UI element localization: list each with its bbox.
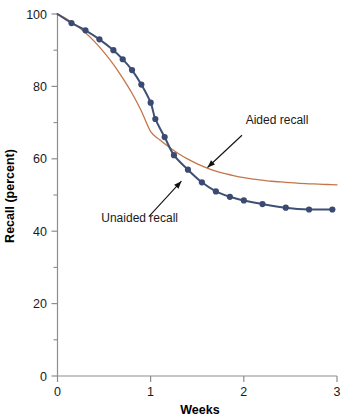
data-point-marker	[110, 47, 116, 53]
chart-figure: 100 80 60 40 20 0 0 1 2 3 Weeks Recall (…	[0, 0, 349, 420]
y-tick-label: 60	[33, 152, 47, 166]
recall-decay-line-chart: 100 80 60 40 20 0 0 1 2 3 Weeks Recall (…	[0, 0, 349, 420]
data-point-marker	[138, 81, 144, 87]
data-point-marker	[152, 116, 158, 122]
x-axis-ticks	[58, 376, 338, 382]
annotation-unaided-recall: Unaided recall	[101, 181, 181, 225]
data-point-marker	[171, 152, 177, 158]
y-tick-label: 0	[40, 370, 47, 384]
axis-lines	[58, 14, 338, 376]
y-axis-title: Recall (percent)	[3, 149, 17, 243]
data-point-marker	[120, 56, 126, 62]
data-point-marker	[148, 100, 154, 106]
data-point-marker	[241, 197, 247, 203]
data-point-marker	[213, 188, 219, 194]
data-point-marker	[329, 206, 335, 212]
data-point-marker	[68, 20, 74, 26]
annotation-label: Unaided recall	[101, 211, 178, 225]
y-tick-label: 20	[33, 297, 47, 311]
y-tick-label: 40	[33, 225, 47, 239]
y-tick-labels: 100 80 60 40 20 0	[26, 8, 47, 384]
data-point-marker	[227, 194, 233, 200]
data-point-marker	[185, 167, 191, 173]
data-point-marker	[82, 27, 88, 33]
x-tick-label: 0	[54, 385, 61, 399]
y-tick-label: 80	[33, 80, 47, 94]
data-point-marker	[162, 134, 168, 140]
x-tick-label: 3	[334, 385, 341, 399]
data-point-marker	[283, 205, 289, 211]
y-tick-label: 100	[26, 8, 47, 22]
x-tick-labels: 0 1 2 3	[54, 385, 341, 399]
annotation-label: Aided recall	[246, 113, 309, 127]
x-tick-label: 2	[240, 385, 247, 399]
series-line-unaided-recall	[58, 14, 333, 210]
data-point-marker	[129, 67, 135, 73]
x-axis-title: Weeks	[180, 403, 219, 417]
data-point-marker	[96, 36, 102, 42]
annotation-aided-recall: Aided recall	[208, 113, 309, 167]
data-point-marker	[306, 206, 312, 212]
data-point-marker	[259, 201, 265, 207]
x-tick-label: 1	[147, 385, 154, 399]
data-point-marker	[199, 179, 205, 185]
